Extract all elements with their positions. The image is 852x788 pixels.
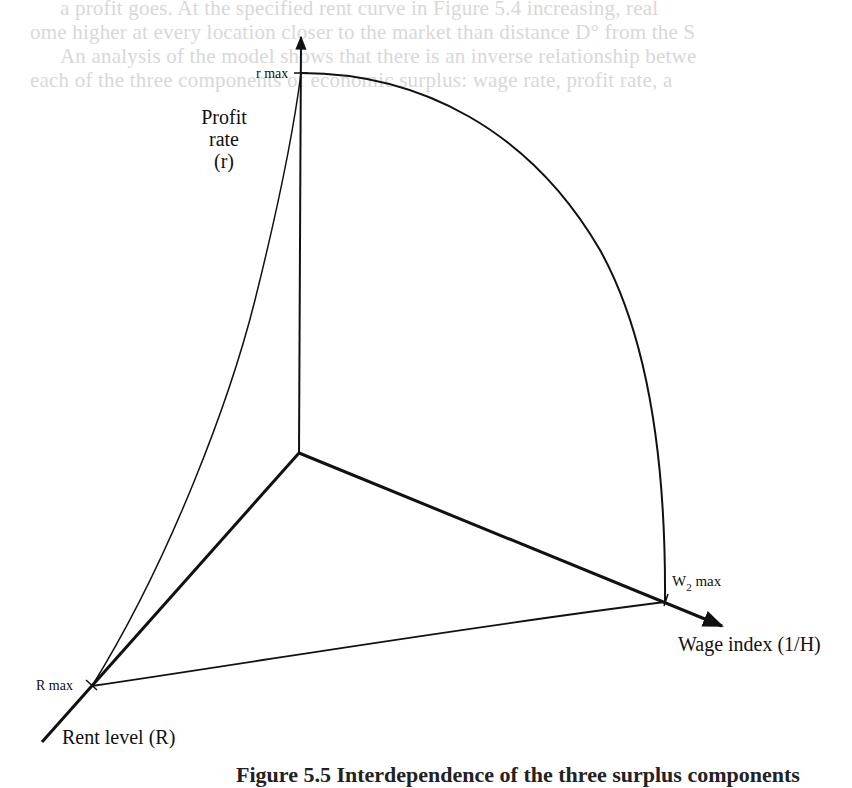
w2-max-label-suffix: max xyxy=(692,573,722,589)
w2-max-label: W2 max xyxy=(672,573,722,593)
profit-axis-label-line1: Profit xyxy=(201,106,247,128)
rent-wage-frontier xyxy=(92,602,665,686)
wage-axis xyxy=(299,453,722,626)
rent-axis xyxy=(42,453,299,742)
profit-axis-label-line2: rate xyxy=(209,128,239,150)
profit-axis xyxy=(299,37,301,453)
r-max-rent-label: R max xyxy=(36,678,73,693)
figure-caption: Figure 5.5 Interdependence of the three … xyxy=(236,762,800,788)
profit-wage-frontier xyxy=(301,73,665,602)
w2-max-label-base: W xyxy=(672,573,687,589)
r-max-label: r max xyxy=(256,66,288,81)
profit-axis-label-line3: (r) xyxy=(214,150,234,173)
rent-profit-frontier xyxy=(92,73,301,686)
wage-axis-label: Wage index (1/H) xyxy=(678,633,821,656)
rent-axis-label: Rent level (R) xyxy=(62,726,175,749)
